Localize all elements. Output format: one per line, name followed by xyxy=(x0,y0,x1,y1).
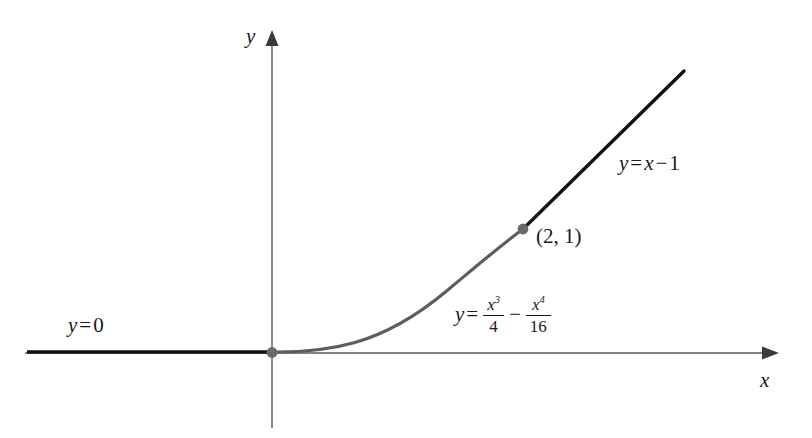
curve-eq-second-denominator: 16 xyxy=(526,317,551,335)
y-axis-arrowhead xyxy=(266,30,279,46)
x-axis-label: x xyxy=(760,370,769,391)
zero-eq-var: y xyxy=(68,313,77,337)
plot-canvas xyxy=(0,0,812,438)
curve-eq-first-fraction: x3 4 xyxy=(483,295,504,335)
line-eq-rhs-var: x xyxy=(644,151,653,175)
curve-eq-first-denominator: 4 xyxy=(483,317,504,335)
line-eq-constant: 1 xyxy=(669,151,680,175)
y-axis xyxy=(266,30,279,428)
function-graph-figure: y x y=0 y=x−1 (2, 1) y= x3 4 − x4 16 xyxy=(0,0,812,438)
zero-eq-equals: = xyxy=(77,313,93,337)
origin-point-marker xyxy=(267,347,278,358)
line-eq-minus: − xyxy=(654,151,670,175)
curve-eq-equals: = xyxy=(464,302,480,326)
zero-branch-equation-label: y=0 xyxy=(68,315,104,336)
curve-eq-first-numerator: x3 xyxy=(483,295,504,314)
curve-eq-second-exponent: 4 xyxy=(539,294,544,305)
curve-eq-second-fraction: x4 16 xyxy=(526,295,551,335)
point-coordinate-label: (2, 1) xyxy=(536,226,582,247)
curve-eq-second-fraction-bar xyxy=(526,315,551,316)
curve-equation-label: y= x3 4 − x4 16 xyxy=(455,296,554,336)
curve-eq-first-fraction-bar xyxy=(483,315,504,316)
zero-eq-value: 0 xyxy=(93,313,104,337)
tangent-line-segment xyxy=(523,71,684,229)
point-2-1-marker xyxy=(518,224,529,235)
line-eq-equals: = xyxy=(628,151,644,175)
y-axis-label: y xyxy=(246,26,255,47)
curve-eq-minus: − xyxy=(507,302,523,326)
curve-eq-lhs-var: y xyxy=(455,302,464,326)
curve-eq-first-exponent: 3 xyxy=(495,294,500,305)
line-eq-lhs-var: y xyxy=(619,151,628,175)
line-branch-equation-label: y=x−1 xyxy=(619,153,680,174)
curve-eq-second-numerator: x4 xyxy=(526,295,551,314)
x-axis-arrowhead xyxy=(762,347,779,360)
